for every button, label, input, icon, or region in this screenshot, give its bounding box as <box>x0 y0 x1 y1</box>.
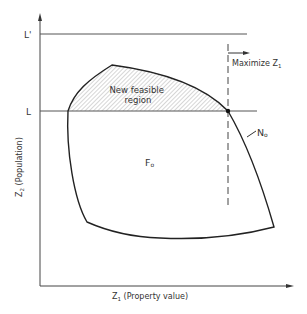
level-label-lower: L <box>26 107 31 117</box>
level-label-upper: L' <box>24 30 32 40</box>
tangent-point <box>226 109 230 113</box>
y-axis-arrow-icon <box>38 13 42 21</box>
original-region-label: Fo <box>145 157 154 168</box>
feasible-region-diagram: L' L New feasible region Fo No Maximize … <box>0 0 307 314</box>
y-axis-label: Z2 (Population) <box>15 137 25 197</box>
curve-label: No <box>257 127 268 138</box>
x-axis-arrow-icon <box>286 284 294 288</box>
maximize-label: Maximize Z1 <box>232 59 281 69</box>
x-axis-label: Z1 (Property value) <box>112 292 188 302</box>
curve-label-pointer <box>247 131 256 137</box>
maximize-arrow-head-icon <box>243 51 250 55</box>
